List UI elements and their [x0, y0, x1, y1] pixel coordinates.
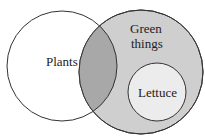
- lettuce-label: Lettuce: [138, 85, 177, 100]
- green-things-label-line1: Green: [130, 21, 162, 36]
- plants-label: Plants: [46, 54, 78, 69]
- venn-diagram: Plants Green things Lettuce: [0, 0, 205, 139]
- green-things-label-line2: things: [131, 36, 163, 51]
